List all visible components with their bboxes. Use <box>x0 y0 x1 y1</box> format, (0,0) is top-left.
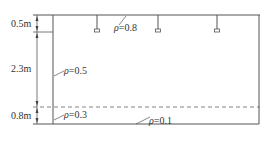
dimension-label-2.3m: 2.3m <box>10 63 35 75</box>
pendant-lamp-icon <box>156 15 161 32</box>
reflectance-label: ρ=0.3 <box>63 109 87 120</box>
arrow-down-icon <box>36 101 39 106</box>
arrow-up-icon <box>36 108 39 113</box>
dimension-text: 0.8m <box>11 110 32 121</box>
arrow-up-icon <box>36 16 39 21</box>
reflectance-label: ρ=0.5 <box>63 65 87 76</box>
pendant-lamp-icon <box>95 15 100 32</box>
room-section-diagram: 0.5m 2.3m 0.8m ρ=0.8 ρ=0.5 ρ=0.3 ρ=0.1 <box>0 0 268 145</box>
arrow-down-icon <box>36 118 39 123</box>
arrow-up-icon <box>36 33 39 38</box>
leader-line <box>54 71 64 76</box>
pendant-lamp-icon <box>215 15 220 32</box>
dimension-label-0.5m: 0.5m <box>10 18 35 30</box>
reflectance-wall: ρ=0.5 <box>54 65 87 76</box>
leader-line <box>136 117 150 124</box>
reflectance-label: ρ=0.8 <box>113 22 137 33</box>
reflectance-lower-wall: ρ=0.3 <box>54 109 87 120</box>
dimension-label-0.8m: 0.8m <box>10 110 35 122</box>
arrow-down-icon <box>36 26 39 31</box>
leader-line <box>54 115 64 120</box>
reflectance-ceiling: ρ=0.8 <box>113 16 137 33</box>
dimension-text: 2.3m <box>11 63 32 74</box>
dimension-text: 0.5m <box>11 18 32 29</box>
reflectance-label: ρ=0.1 <box>148 115 172 126</box>
